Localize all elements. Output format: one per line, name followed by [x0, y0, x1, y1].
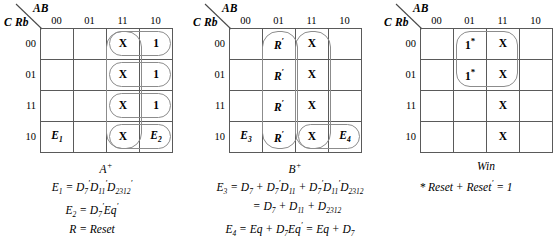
kmap1-caption-text: A	[100, 163, 107, 175]
kmap1-row-header-3: 10	[14, 131, 36, 142]
kmap2-grid: R′ X R′ X R′ X E3 R′ X E4	[229, 28, 362, 153]
cell-value: E4	[339, 130, 350, 144]
eq-term-sub: 2312	[326, 206, 341, 215]
cell-value-star: *	[471, 36, 476, 46]
kmap1-cell-r1c2[interactable]: X	[107, 60, 140, 91]
kmap1-cell-r3c0[interactable]: E1	[41, 122, 74, 153]
kmap2-cell-r1c0[interactable]	[230, 60, 263, 91]
eq-term-sub: 7	[84, 187, 88, 196]
cell-value-prime: ′	[282, 129, 285, 139]
kmap3-cell-r3c1[interactable]	[454, 122, 487, 153]
kmap2-cell-r3c2[interactable]: X	[296, 122, 329, 153]
kmap3-cell-r1c2[interactable]: X	[487, 60, 520, 91]
kmap3-cell-r1c1[interactable]: 1*	[454, 60, 487, 91]
kmap1-row-header-2: 11	[14, 100, 36, 111]
eq-term-sub: 7	[98, 210, 102, 219]
cell-value: E1	[51, 130, 62, 144]
kmap1-cell-r3c1[interactable]	[74, 122, 107, 153]
cell-value: X	[499, 38, 507, 50]
kmap2-cell-r0c3[interactable]	[329, 29, 362, 60]
kmap1-equation-line-2: E2 = D7′Eq′	[6, 199, 178, 222]
kmap2-cell-r2c3[interactable]	[329, 91, 362, 122]
kmap3-row-header-1: 01	[394, 69, 416, 80]
kmap2-cell-r0c2[interactable]: X	[296, 29, 329, 60]
kmap2-cell-r2c0[interactable]	[230, 91, 263, 122]
kmap1-row-variable-label: C Rb	[4, 16, 29, 28]
kmap3-caption: Win	[420, 160, 552, 172]
eq-term: D	[280, 181, 288, 193]
kmap2-cell-r3c1[interactable]: R′	[263, 122, 296, 153]
kmap3-cell-r2c3[interactable]	[520, 91, 553, 122]
kmap1-cell-r3c3[interactable]: E2	[140, 122, 173, 153]
kmap2-row-header-1: 01	[203, 69, 225, 80]
cell-value-sub: 1	[59, 135, 63, 144]
kmap3-cell-r1c0[interactable]	[421, 60, 454, 91]
cell-value-sub: 4	[347, 135, 351, 144]
eq-term-sub: 7	[275, 187, 279, 196]
kmap2-equations: E3 = D7 + D7′D11 + D7′D11′D2312 = D7 + D…	[185, 176, 395, 240]
kmap1-col-variable-label: AB	[33, 2, 49, 14]
kmap2-cell-r3c0[interactable]: E3	[230, 122, 263, 153]
kmap3-cell-r3c2[interactable]: X	[487, 122, 520, 153]
kmap1-cell-r0c0[interactable]	[41, 29, 74, 60]
cell-value: E2	[150, 130, 161, 144]
eq-term: Reset + Reset	[425, 181, 491, 193]
kmap3-cell-r3c3[interactable]	[520, 122, 553, 153]
kmap1-row-header-0: 00	[14, 38, 36, 49]
kmap1-equations: E1 = D7′D11′D2312′ E2 = D7′Eq′ R = Reset	[6, 176, 178, 237]
kmap2-cell-r0c0[interactable]	[230, 29, 263, 60]
eq-lhs: E	[66, 204, 73, 216]
cell-value-prime: ′	[282, 98, 285, 108]
eq-term-prime: ′	[130, 178, 132, 188]
kmap2-cell-r1c2[interactable]: X	[296, 60, 329, 91]
cell-value-star: *	[471, 67, 476, 77]
kmap1-cell-r0c1[interactable]	[74, 29, 107, 60]
cell-value-base: R	[274, 132, 282, 144]
kmap2-cell-r1c3[interactable]	[329, 60, 362, 91]
kmap1-cell-r2c0[interactable]	[41, 91, 74, 122]
kmap3-cell-r1c3[interactable]	[520, 60, 553, 91]
kmap3-cell-r2c2[interactable]: X	[487, 91, 520, 122]
eq-term-sub: 7	[351, 230, 355, 239]
cell-value-prime: ′	[282, 67, 285, 77]
kmap1-row-header-1: 01	[14, 69, 36, 80]
kmap2-row-variable-label: C Rb	[193, 16, 218, 28]
kmap3-cell-r2c0[interactable]	[421, 91, 454, 122]
kmap1-cell-r2c1[interactable]	[74, 91, 107, 122]
kmap2-cell-r2c1[interactable]: R′	[263, 91, 296, 122]
kmap2-cell-r1c1[interactable]: R′	[263, 60, 296, 91]
kmap1-cell-r1c1[interactable]	[74, 60, 107, 91]
kmap3-cell-r3c0[interactable]	[421, 122, 454, 153]
cell-value-base: E	[51, 129, 59, 141]
eq-term-sub: 2312	[348, 187, 363, 196]
kmap3-cell-r0c0[interactable]	[421, 29, 454, 60]
kmap2-cell-r0c1[interactable]: R′	[263, 29, 296, 60]
cell-value: R′	[274, 37, 284, 51]
kmap3-cell-r0c3[interactable]	[520, 29, 553, 60]
kmap3-cell-r0c2[interactable]: X	[487, 29, 520, 60]
eq-term-sub: 7	[317, 187, 321, 196]
kmap1-cell-r2c3[interactable]: 1	[140, 91, 173, 122]
kmap1-cell-r3c2[interactable]: X	[107, 122, 140, 153]
kmap2-row-header-2: 11	[203, 100, 225, 111]
cell-value: X	[308, 69, 316, 81]
kmap1-col-header-2: 11	[106, 15, 139, 26]
cell-value-sub: 2	[158, 135, 162, 144]
eq-operator: = Eq + D	[236, 223, 284, 235]
cell-value: X	[308, 100, 316, 112]
kmap1-caption: A+	[40, 160, 172, 175]
cell-value: X	[119, 38, 127, 50]
kmap1-cell-r0c3[interactable]: 1	[140, 29, 173, 60]
kmap1-cell-r1c3[interactable]: 1	[140, 60, 173, 91]
kmap1-cell-r0c2[interactable]: X	[107, 29, 140, 60]
eq-term: Eq	[288, 223, 301, 235]
cell-value-base: E	[339, 129, 347, 141]
kmap3-cell-r2c1[interactable]	[454, 91, 487, 122]
cell-value-base: R	[274, 70, 282, 82]
kmap1-cell-r2c2[interactable]: X	[107, 91, 140, 122]
kmap2-caption: B+	[229, 160, 361, 175]
kmap3-cell-r0c1[interactable]: 1*	[454, 29, 487, 60]
kmap1-cell-r1c0[interactable]	[41, 60, 74, 91]
kmap2-cell-r2c2[interactable]: X	[296, 91, 329, 122]
kmap2-cell-r3c3[interactable]: E4	[329, 122, 362, 153]
